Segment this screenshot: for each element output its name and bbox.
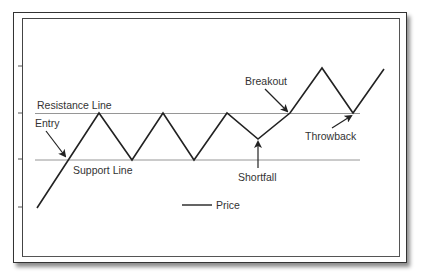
- legend-price-label: Price: [216, 199, 240, 211]
- entry-label: Entry: [35, 117, 60, 129]
- price-pattern-chart: [0, 0, 422, 274]
- entry-arrow: [46, 131, 65, 156]
- shortfall-label: Shortfall: [238, 171, 277, 183]
- breakout-arrow: [265, 89, 287, 111]
- throwback-label: Throwback: [305, 130, 356, 142]
- breakout-label: Breakout: [245, 75, 287, 87]
- resistance-line-label: Resistance Line: [37, 99, 112, 111]
- y-axis-ticks: [18, 66, 22, 207]
- support-line-label: Support Line: [73, 164, 133, 176]
- throwback-arrow: [332, 116, 351, 128]
